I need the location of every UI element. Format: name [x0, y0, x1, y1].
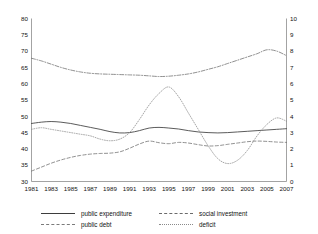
legend-label: public debt [81, 221, 111, 228]
legend-label: deficit [199, 221, 215, 228]
x-tick-label: 1987 [83, 185, 97, 192]
y-tick-label: 65 [21, 64, 28, 71]
series-lines [32, 50, 287, 171]
chart-container: 3035404550556065707580 012345678910 1981… [0, 0, 318, 234]
x-tick-label: 1983 [44, 185, 58, 192]
y2-tick-label: 10 [290, 15, 297, 22]
y2-tick-label: 4 [290, 113, 294, 120]
y2-tick-label: 5 [290, 96, 294, 103]
series-line-public-expenditure [32, 122, 287, 133]
y2-tick-label: 1 [290, 161, 294, 168]
y2-tick-label: 8 [290, 47, 294, 54]
y-tick-label: 55 [21, 96, 28, 103]
legend-swatch-dotted-icon [159, 224, 193, 226]
legend-label: social investment [199, 210, 247, 217]
x-tick-label: 1985 [64, 185, 78, 192]
y2-tick-label: 7 [290, 64, 294, 71]
legend-swatch-dashdot-icon [41, 224, 75, 226]
x-tick-label: 1993 [142, 185, 156, 192]
x-tick-label: 1981 [25, 185, 39, 192]
legend-item-deficit: deficit [159, 221, 277, 228]
y2-tick-label: 2 [290, 145, 294, 152]
y-tick-label: 30 [21, 178, 28, 185]
x-axis: 1981198319851987198919911993199519971999… [25, 182, 294, 193]
legend-label: public expenditure [81, 210, 132, 217]
x-tick-label: 1989 [103, 185, 117, 192]
y-axis-right: 012345678910 [287, 15, 298, 185]
x-tick-label: 1999 [201, 185, 215, 192]
y2-tick-label: 9 [290, 31, 294, 38]
legend-item-public-expenditure: public expenditure [41, 210, 159, 217]
x-tick-label: 2003 [240, 185, 254, 192]
legend-swatch-dashed-icon [159, 213, 193, 215]
y-tick-label: 45 [21, 129, 28, 136]
y-tick-label: 40 [21, 145, 28, 152]
chart-plot-area: 3035404550556065707580 012345678910 1981… [0, 0, 318, 234]
x-tick-label: 2001 [221, 185, 235, 192]
y-tick-label: 70 [21, 47, 28, 54]
x-tick-label: 1995 [162, 185, 176, 192]
x-tick-label: 1991 [123, 185, 137, 192]
chart-legend: public expenditure social investment pub… [0, 208, 318, 230]
y-tick-label: 80 [21, 15, 28, 22]
y-tick-label: 75 [21, 31, 28, 38]
x-tick-label: 2007 [280, 185, 294, 192]
legend-item-social-investment: social investment [159, 210, 277, 217]
y-tick-label: 35 [21, 161, 28, 168]
series-line-social-investment [32, 141, 287, 171]
series-line-deficit [32, 87, 287, 164]
y-tick-label: 50 [21, 113, 28, 120]
legend-item-public-debt: public debt [41, 221, 159, 228]
series-line-public-debt [32, 50, 287, 77]
y-tick-label: 60 [21, 80, 28, 87]
x-tick-label: 2005 [260, 185, 274, 192]
legend-row-bottom: public debt deficit [0, 219, 318, 230]
y2-tick-label: 3 [290, 129, 294, 136]
y2-tick-label: 6 [290, 80, 294, 87]
legend-row-top: public expenditure social investment [0, 208, 318, 219]
y2-tick-label: 0 [290, 178, 294, 185]
y-axis-left: 3035404550556065707580 [21, 15, 31, 185]
x-tick-label: 1997 [182, 185, 196, 192]
legend-swatch-solid-icon [41, 213, 75, 215]
